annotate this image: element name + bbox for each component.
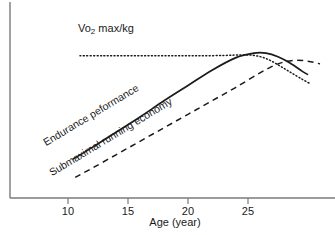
x-axis-title: Age (year) <box>135 216 215 228</box>
vo2-suffix-text: max/kg <box>95 22 134 34</box>
series-line-2 <box>75 60 320 177</box>
data-series-layer <box>73 53 320 178</box>
x-axis-ticks <box>68 198 248 204</box>
x-tick-label-25: 25 <box>228 205 268 217</box>
series-line-0 <box>80 55 310 84</box>
vo2-subscript-text: 2 <box>91 27 95 36</box>
x-tick-label-10: 10 <box>48 205 88 217</box>
chart-plot-area <box>0 0 335 235</box>
chart-container: 10 15 20 25 Age (year) Vo2 max/kg Endura… <box>0 0 335 235</box>
vo2-prefix-text: Vo <box>78 22 91 34</box>
vo2max-series-label: Vo2 max/kg <box>78 22 134 34</box>
